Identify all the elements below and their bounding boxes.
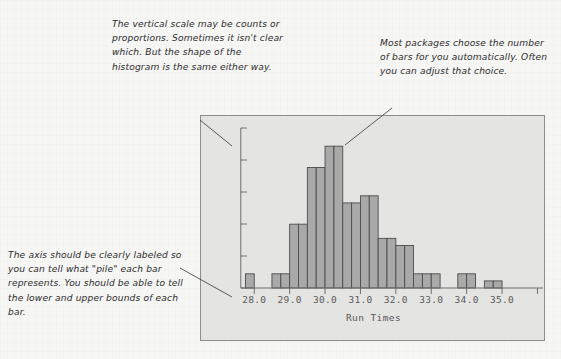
x-axis-tick-label: 29.0 xyxy=(278,294,302,305)
histogram-bar xyxy=(431,274,440,288)
x-axis-tick-label: 28.0 xyxy=(242,294,266,305)
annotation-vertical-scale: The vertical scale may be counts or prop… xyxy=(112,17,284,74)
histogram-bar xyxy=(458,274,467,288)
histogram-panel: Run Times 28.029.030.031.032.033.034.035… xyxy=(200,115,545,341)
histogram-bar xyxy=(290,224,299,288)
x-axis-title: Run Times xyxy=(201,312,546,323)
histogram-bar xyxy=(493,281,502,288)
histogram-bar xyxy=(396,245,405,288)
histogram-bar xyxy=(360,196,369,288)
histogram-bar xyxy=(422,274,431,288)
annotation-number-of-bars: Most packages choose the number of bars … xyxy=(380,36,555,79)
histogram-bar xyxy=(484,281,493,288)
histogram-bar xyxy=(387,238,396,288)
histogram-bar xyxy=(316,167,325,288)
x-axis-tick-label: 33.0 xyxy=(419,294,443,305)
x-axis-tick-label: 32.0 xyxy=(384,294,408,305)
histogram-bar xyxy=(405,245,414,288)
histogram-bar xyxy=(272,274,281,288)
histogram-bar xyxy=(325,146,334,288)
histogram-bar xyxy=(467,274,476,288)
x-axis-tick-label: 35.0 xyxy=(490,294,514,305)
histogram-bar xyxy=(298,224,307,288)
histogram-bar xyxy=(334,146,343,288)
histogram-bar xyxy=(352,203,361,288)
annotation-axis-labeling: The axis should be clearly labeled so yo… xyxy=(8,248,198,319)
x-axis-tick-label: 34.0 xyxy=(455,294,479,305)
histogram-bar xyxy=(245,274,254,288)
x-axis-tick-label: 31.0 xyxy=(348,294,372,305)
histogram-plot xyxy=(201,116,546,342)
histogram-bar xyxy=(414,274,423,288)
x-axis-tick-label: 30.0 xyxy=(313,294,337,305)
histogram-bar xyxy=(343,203,352,288)
histogram-bar xyxy=(281,274,290,288)
histogram-bar xyxy=(378,238,387,288)
histogram-bar xyxy=(369,196,378,288)
histogram-bar xyxy=(307,167,316,288)
